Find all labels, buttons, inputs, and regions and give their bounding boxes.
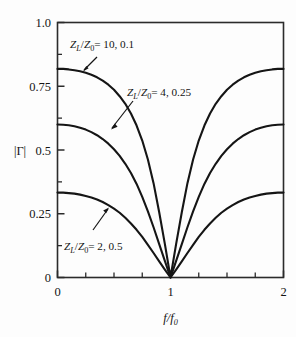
y-tick-label-4: 0.25 — [29, 207, 51, 221]
x-tick-label-2: 1 — [167, 285, 173, 299]
x-axis-title-den-sub: 0 — [174, 318, 178, 327]
x-tick-label-3: 2 — [280, 285, 286, 299]
chart-svg: 1.0 0.75 0.5 0.25 0 0 1 2 |Γ| f/f0 — [0, 0, 296, 337]
ann-2-rhs: = 2, 0.5 — [88, 240, 123, 252]
y-tick-label-1: 1.0 — [35, 16, 51, 30]
y-axis-title: |Γ| — [14, 144, 26, 158]
chart-background — [0, 0, 296, 337]
ann-10-rhs: = 10, 0.1 — [94, 38, 134, 50]
ann-4-rhs: = 4, 0.25 — [151, 86, 191, 98]
y-tick-label-2: 0.75 — [29, 80, 51, 94]
x-tick-label-1: 0 — [54, 285, 60, 299]
y-tick-label-3: 0.5 — [35, 144, 51, 158]
y-tick-label-5: 0 — [45, 271, 51, 285]
reflection-coefficient-chart: 1.0 0.75 0.5 0.25 0 0 1 2 |Γ| f/f0 — [0, 0, 296, 337]
